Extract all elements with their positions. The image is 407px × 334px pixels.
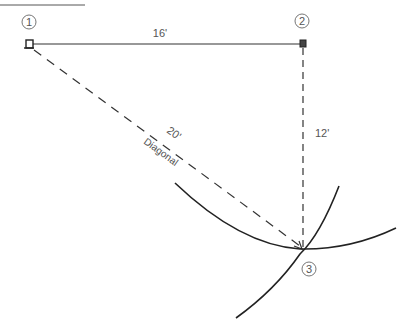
- edge-2-3-label: 12': [315, 127, 329, 139]
- point-2-label: 2: [295, 14, 309, 28]
- point-2-marker: [300, 40, 306, 47]
- edge-1-2-label: 16': [153, 27, 167, 39]
- layout-diagram: 1 2 3 16' 12' 20' Diagonal: [0, 0, 407, 334]
- arc-from-point-1: [175, 183, 396, 249]
- point-1-label: 1: [22, 15, 36, 29]
- edge-1-3-diagonal: [34, 50, 300, 246]
- point-3-label: 3: [302, 262, 316, 276]
- arc-from-point-2: [236, 186, 339, 318]
- svg-text:3: 3: [306, 263, 312, 275]
- svg-text:2: 2: [299, 15, 305, 27]
- svg-text:1: 1: [26, 16, 32, 28]
- diagonal-length-label: 20': [165, 124, 184, 142]
- point-1-marker: [26, 40, 33, 48]
